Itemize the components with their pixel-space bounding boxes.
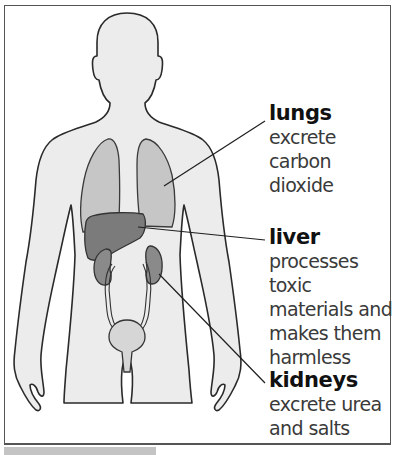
lungs-desc-line-1: excrete carbon — [269, 125, 395, 173]
kidneys-label: kidneys excrete urea and salts — [269, 368, 382, 440]
liver-label: liver processes toxic materials and make… — [269, 225, 395, 369]
lungs-desc-line-2: dioxide — [269, 173, 395, 197]
liver-desc-line-1: processes toxic — [269, 249, 395, 297]
liver-desc-line-4: harmless — [269, 345, 395, 369]
liver-desc-line-2: materials and — [269, 297, 395, 321]
kidneys-title: kidneys — [269, 368, 382, 392]
kidneys-desc-line-1: excrete urea — [269, 392, 382, 416]
liver-title: liver — [269, 225, 395, 249]
liver-desc-line-3: makes them — [269, 321, 395, 345]
lungs-title: lungs — [269, 101, 395, 125]
kidneys-desc-line-2: and salts — [269, 416, 382, 440]
lungs-label: lungs excrete carbon dioxide — [269, 101, 395, 197]
